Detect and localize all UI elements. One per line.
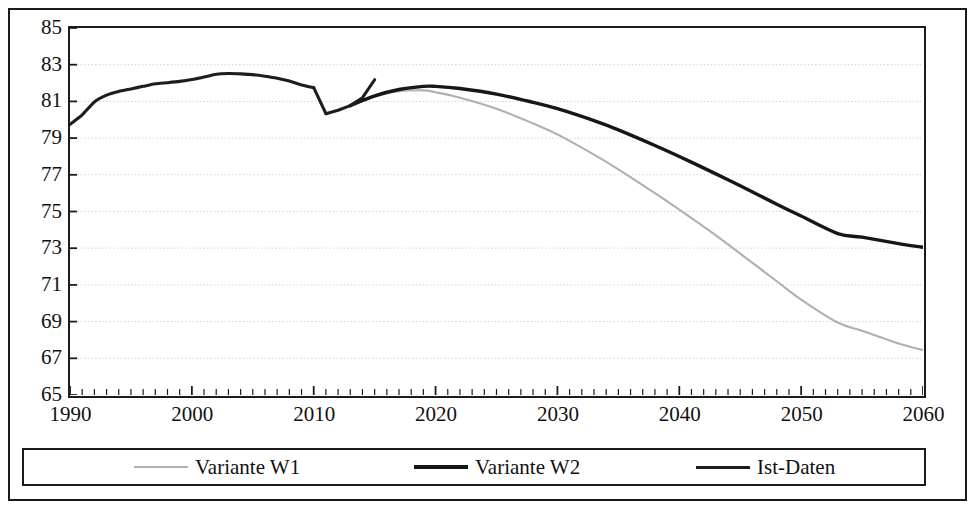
- legend-item-label: Ist-Daten: [757, 457, 835, 478]
- legend-item-ist-daten: Ist-Daten: [696, 450, 835, 484]
- y-axis-tick-labels: 8583817977757371696765: [10, 0, 62, 430]
- x-axis-tick-label: 2050: [781, 404, 823, 425]
- census-break-drop: [314, 88, 326, 114]
- line-swatch-icon: [414, 465, 468, 469]
- series-line-ist-daten-historic: [70, 74, 314, 125]
- x-axis-tick-label: 2010: [293, 404, 335, 425]
- x-axis-tick-label: 1990: [50, 404, 92, 425]
- x-axis-tick-label: 2040: [659, 404, 701, 425]
- chart-legend: Variante W1 Variante W2 Ist-Daten: [22, 448, 926, 486]
- y-axis-tick-label: 69: [16, 311, 62, 332]
- x-axis-tick-label: 2000: [171, 404, 213, 425]
- y-axis-tick-label: 81: [16, 90, 62, 111]
- x-axis-tick-labels: 19902000201020202030204020502060: [0, 404, 978, 434]
- line-swatch-icon: [134, 466, 188, 468]
- y-axis-tick-label: 83: [16, 54, 62, 75]
- y-axis-tick-label: 79: [16, 127, 62, 148]
- y-axis-tick-label: 71: [16, 274, 62, 295]
- y-axis-tick-label: 75: [16, 201, 62, 222]
- x-axis-tick-label: 2020: [415, 404, 457, 425]
- y-axis-tick-label: 77: [16, 164, 62, 185]
- x-axis-tick-label: 2060: [903, 404, 945, 425]
- y-axis-tick-label: 85: [16, 17, 62, 38]
- y-axis-tick-label: 67: [16, 347, 62, 368]
- line-swatch-icon: [696, 466, 750, 469]
- legend-item-variante-w2: Variante W2: [414, 450, 580, 484]
- series-line-variante-w1: [350, 90, 923, 350]
- legend-item-label: Variante W2: [475, 457, 580, 478]
- x-axis-tick-label: 2030: [537, 404, 579, 425]
- series-line-variante-w2: [350, 86, 923, 247]
- plot-area: [68, 26, 926, 398]
- y-axis-tick-label: 73: [16, 237, 62, 258]
- legend-item-variante-w1: Variante W1: [134, 450, 300, 484]
- chart-page: 8583817977757371696765 in Mio. 199020002…: [0, 0, 978, 519]
- chart-canvas: [70, 28, 923, 395]
- legend-item-label: Variante W1: [195, 457, 300, 478]
- series-line-ist-daten-recent: [326, 80, 375, 114]
